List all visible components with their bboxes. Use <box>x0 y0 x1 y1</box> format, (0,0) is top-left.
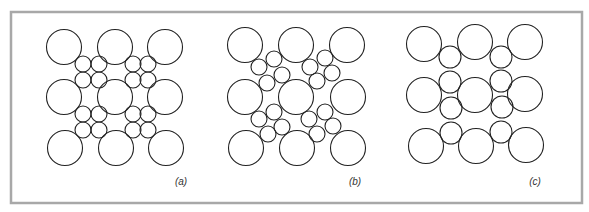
large-atom-circle <box>148 80 183 115</box>
small-atom-circle <box>251 111 267 127</box>
large-atom-circle <box>407 27 442 62</box>
large-atom-circle <box>409 129 444 164</box>
small-atom-circle <box>140 72 156 88</box>
small-atom-circle <box>266 104 282 120</box>
large-atom-circle <box>331 80 366 115</box>
small-atom-circle <box>75 122 91 138</box>
large-atom-circle <box>229 131 264 166</box>
small-atom-circle <box>440 97 462 119</box>
large-atom-circle <box>331 131 366 166</box>
small-atom-circle <box>490 46 512 68</box>
large-atom-circle <box>458 25 493 60</box>
small-atom-circle <box>325 118 341 134</box>
crystal-packing-diagram: (a) (b) (c) <box>0 0 589 212</box>
large-atom-circle <box>407 78 442 113</box>
small-atom-circle <box>251 59 267 75</box>
panel-b-label: (b) <box>349 176 361 187</box>
small-atom-circle <box>260 126 276 142</box>
small-atom-circle <box>317 104 333 120</box>
large-atom-circle <box>509 128 544 163</box>
large-atom-circle <box>458 78 493 113</box>
small-atom-circle <box>490 121 512 143</box>
small-atom-circle <box>91 56 107 72</box>
small-atom-circle <box>91 106 107 122</box>
figure-frame <box>11 12 582 203</box>
small-atom-circle <box>140 122 156 138</box>
small-atom-circle <box>439 46 461 68</box>
small-atom-circle <box>91 122 107 138</box>
large-atom-circle <box>148 30 183 65</box>
small-atom-circle <box>75 56 91 72</box>
small-atom-circle <box>125 106 141 122</box>
small-atom-circle <box>125 56 141 72</box>
small-atom-circle <box>75 72 91 88</box>
small-atom-circle <box>309 73 325 89</box>
large-atom-circle <box>330 28 365 63</box>
small-atom-circle <box>125 72 141 88</box>
small-atom-circle <box>490 70 512 92</box>
small-atom-circle <box>140 56 156 72</box>
small-atom-circle <box>274 67 290 83</box>
small-atom-circle <box>439 71 461 93</box>
panel-a-label: (a) <box>175 176 187 187</box>
panel-a-square-interstitial-packing <box>47 30 184 166</box>
panel-c-column-interstitial-packing <box>407 25 544 164</box>
large-atom-circle <box>228 28 263 63</box>
large-atom-circle <box>508 25 543 60</box>
panel-c-label: (c) <box>529 176 541 187</box>
small-atom-circle <box>491 96 513 118</box>
large-atom-circle <box>279 28 314 63</box>
small-atom-circle <box>91 72 107 88</box>
large-atom-circle <box>279 80 314 115</box>
large-atom-circle <box>459 129 494 164</box>
panel-b-rotated-interstitial-packing <box>228 28 366 166</box>
small-atom-circle <box>259 75 275 91</box>
small-atom-circle <box>317 50 333 66</box>
small-atom-circle <box>301 111 317 127</box>
small-atom-circle <box>125 122 141 138</box>
small-atom-circle <box>266 51 282 67</box>
small-atom-circle <box>440 122 462 144</box>
small-atom-circle <box>140 106 156 122</box>
large-atom-circle <box>228 80 263 115</box>
small-atom-circle <box>75 106 91 122</box>
small-atom-circle <box>309 126 325 142</box>
small-atom-circle <box>324 65 340 81</box>
